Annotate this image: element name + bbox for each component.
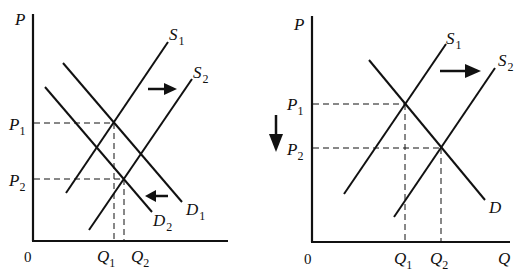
left-supply-shift-arrow-right: [148, 83, 177, 95]
left-s1-label: S1: [169, 25, 185, 48]
right-supply-shift-arrow-right: [440, 64, 481, 78]
right-diagram: P 0 Q S1 S2 D P1 P2 Q1 Q2: [269, 15, 514, 272]
left-p1-label: P1: [8, 115, 25, 138]
left-s2-label: S2: [193, 63, 209, 86]
right-p1-label: P1: [286, 95, 303, 118]
left-d2-label: D2: [152, 211, 172, 234]
right-y-axis-label: P: [293, 15, 304, 34]
right-q2-label: Q2: [430, 249, 448, 272]
left-q2-label: Q2: [131, 247, 149, 270]
left-diagram: P 0 S1 S2 D1 D2 P1 P2 Q1 Q2: [8, 10, 228, 270]
supply-demand-diagrams: P 0 S1 S2 D1 D2 P1 P2 Q1 Q2: [0, 0, 526, 278]
right-origin-label: 0: [304, 251, 312, 267]
price-decrease-arrow-down: [269, 115, 283, 152]
left-q1-label: Q1: [97, 247, 115, 270]
right-x-axis-label: Q: [498, 249, 510, 268]
left-y-axis-label: P: [14, 10, 25, 29]
right-p2-label: P2: [286, 140, 303, 163]
right-s2-label: S2: [498, 51, 514, 74]
right-d-label: D: [488, 198, 502, 217]
left-d1-label: D1: [185, 200, 205, 223]
left-p2-label: P2: [8, 171, 25, 194]
left-origin-label: 0: [24, 249, 32, 265]
right-s1-label: S1: [446, 29, 462, 52]
right-supply-s1: [344, 44, 446, 194]
left-demand-shift-arrow-left: [145, 190, 168, 202]
right-q1-label: Q1: [394, 249, 412, 272]
